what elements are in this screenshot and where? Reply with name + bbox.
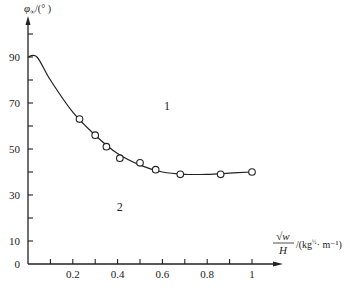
data-point-circle-icon xyxy=(249,169,256,176)
x-axis: 0.20.40.60.81 xyxy=(28,259,283,280)
x-tick-label: 0.8 xyxy=(200,268,214,280)
data-point-circle-icon xyxy=(76,116,83,123)
measured-points xyxy=(76,116,255,178)
fitted-curve xyxy=(28,55,252,174)
x-tick-label: 0.2 xyxy=(66,268,80,280)
data-point-circle-icon xyxy=(92,132,99,139)
region-label: 1 xyxy=(164,99,170,113)
y-axis: 01030507090 xyxy=(9,16,33,270)
data-point-circle-icon xyxy=(217,171,224,178)
y-axis-arrow-icon xyxy=(26,16,31,25)
y-tick-label: 10 xyxy=(9,235,21,247)
y-tick-label: 90 xyxy=(9,51,21,63)
svg-text:/(kg½· m⁻¹): /(kg½· m⁻¹) xyxy=(296,239,342,251)
y-tick-labels: 01030507090 xyxy=(9,51,21,270)
chart: 01030507090 0.20.40.60.81 φ∞/(° ) √w H /… xyxy=(0,0,351,290)
data-point-circle-icon xyxy=(137,160,144,167)
data-point-circle-icon xyxy=(103,143,110,150)
region-label: 2 xyxy=(117,200,123,214)
y-ticks xyxy=(28,34,33,241)
x-axis-title: √w H /(kg½· m⁻¹) xyxy=(273,230,342,256)
svg-text:√w: √w xyxy=(276,230,290,242)
region-labels: 12 xyxy=(117,99,170,214)
data-point-circle-icon xyxy=(152,166,159,173)
y-tick-label: 0 xyxy=(15,258,21,270)
x-ticks xyxy=(50,259,252,264)
data-point-circle-icon xyxy=(177,171,184,178)
x-axis-arrow-icon xyxy=(273,262,283,267)
x-tick-label: 0.4 xyxy=(111,268,125,280)
x-tick-label: 1 xyxy=(249,268,255,280)
svg-text:H: H xyxy=(278,244,288,256)
y-tick-label: 50 xyxy=(9,143,21,155)
data-point-circle-icon xyxy=(117,155,124,162)
x-tick-label: 0.6 xyxy=(156,268,170,280)
y-tick-label: 30 xyxy=(9,189,21,201)
y-axis-title: φ∞/(° ) xyxy=(24,2,51,16)
y-tick-label: 70 xyxy=(9,97,21,109)
x-tick-labels: 0.20.40.60.81 xyxy=(66,268,255,280)
